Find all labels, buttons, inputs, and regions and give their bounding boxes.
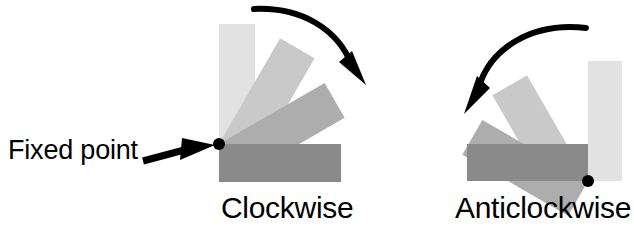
clockwise-label: Clockwise <box>221 193 353 223</box>
clockwise-fixed-point-dot <box>213 138 225 150</box>
fixed-point-label: Fixed point <box>8 137 138 164</box>
anticlockwise-bar-1-lightest <box>588 61 622 181</box>
anticlockwise-label: Anticlockwise <box>455 193 631 223</box>
clockwise-bar-4-dark <box>219 144 341 182</box>
anticlockwise-bar-4-dark <box>467 144 588 181</box>
anticlockwise-fixed-point-dot <box>582 175 594 187</box>
